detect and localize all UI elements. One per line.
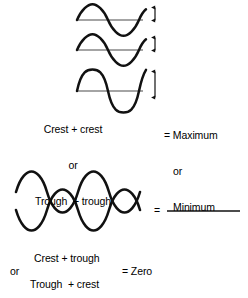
constructive-wave-1 (77, 4, 146, 36)
constructive-wave-2 (77, 34, 146, 66)
constructive-result-label: = Maximum or Minimum (164, 105, 248, 237)
wave-interference-diagram: Crest + crest or Trough + trough = Maxim… (0, 0, 248, 298)
constructive-result-line-2: or (164, 165, 248, 177)
constructive-result-line-3: Minimum (164, 201, 248, 213)
destructive-caption-line-3: Trough + crest (30, 278, 99, 290)
constructive-caption-line-3: Trough + trough (0, 195, 146, 207)
destructive-caption-line-1: Crest + trough (34, 252, 99, 264)
constructive-result-line-1: = Maximum (164, 129, 248, 141)
destructive-caption-line-2: or (10, 265, 19, 277)
constructive-caption-line-2: or (0, 159, 146, 171)
destructive-equals-sign: = (154, 204, 160, 216)
destructive-result-label: = Zero (122, 265, 152, 277)
constructive-caption-line-1: Crest + crest (0, 123, 146, 135)
constructive-caption: Crest + crest or Trough + trough (0, 99, 146, 231)
